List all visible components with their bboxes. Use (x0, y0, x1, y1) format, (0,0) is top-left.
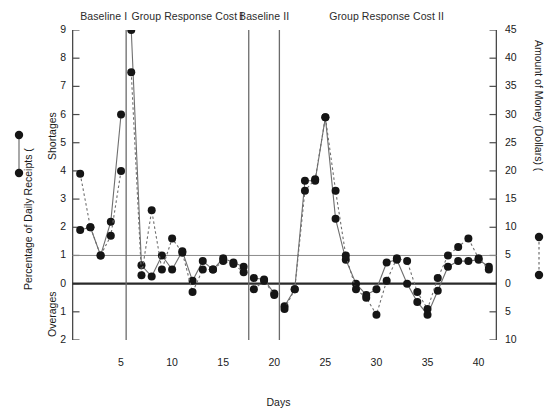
data-point (148, 273, 156, 281)
data-point (148, 206, 156, 214)
data-point (332, 215, 340, 223)
data-point (434, 274, 442, 282)
data-point (311, 175, 319, 183)
data-point (168, 266, 176, 274)
data-point (76, 170, 84, 178)
data-point (270, 291, 278, 299)
series-line-1 (285, 117, 489, 314)
left-axis-tick-label: 3 (44, 192, 66, 204)
x-axis-tick-label: 40 (467, 356, 491, 368)
phase-label-4: Group Response Cost II (329, 10, 444, 22)
x-axis-tick-label: 20 (262, 356, 286, 368)
data-point (209, 266, 217, 274)
right-axis-tick-label: 5 (505, 305, 529, 317)
data-point (372, 311, 380, 319)
x-axis-tick-label: 15 (211, 356, 235, 368)
x-axis-title: Days (0, 396, 557, 408)
data-point (403, 257, 411, 265)
x-axis-tick-label: 5 (109, 356, 133, 368)
data-point (76, 226, 84, 234)
left-axis-tick-label: 7 (44, 79, 66, 91)
solid-line-legend-symbol (10, 126, 28, 182)
data-point (250, 285, 258, 293)
right-axis-tick-label: 35 (505, 79, 529, 91)
data-point (117, 167, 125, 175)
left-axis-tick-label: 8 (44, 51, 66, 63)
data-point (352, 285, 360, 293)
data-point (301, 177, 309, 185)
data-point (240, 268, 248, 276)
right-axis-tick-label: 45 (505, 23, 529, 35)
data-point (97, 251, 105, 259)
data-point (199, 266, 207, 274)
x-axis-tick-label: 35 (416, 356, 440, 368)
data-point (189, 277, 197, 285)
data-point (291, 285, 299, 293)
legend-marker-bottom (535, 271, 543, 279)
data-point (321, 113, 329, 121)
data-point (485, 266, 493, 274)
series-line-2 (285, 117, 489, 314)
left-axis-tick-label: 2 (44, 220, 66, 232)
series-line-1 (131, 30, 243, 281)
data-point (189, 288, 197, 296)
data-point (464, 257, 472, 265)
right-axis-tick-label: 15 (505, 192, 529, 204)
x-axis-tick-label: 10 (160, 356, 184, 368)
data-point (342, 251, 350, 259)
left-axis-tick-label: 4 (44, 164, 66, 176)
data-point (393, 254, 401, 262)
data-point (403, 280, 411, 288)
legend-marker-top (15, 131, 23, 139)
right-axis-tick-label: 10 (505, 220, 529, 232)
data-point (250, 274, 258, 282)
left-axis-shortages-label: Shortages (46, 112, 58, 160)
data-point (117, 111, 125, 119)
data-point (413, 288, 421, 296)
data-point (301, 187, 309, 195)
left-axis-tick-label: 0 (44, 277, 66, 289)
phase-label-2: Group Response Cost I (131, 10, 243, 22)
data-point (424, 305, 432, 313)
data-point (332, 187, 340, 195)
data-point (454, 257, 462, 265)
data-point (281, 305, 289, 313)
data-point (86, 223, 94, 231)
data-point (168, 235, 176, 243)
legend-marker-bottom (15, 169, 23, 177)
right-axis-tick-label: 0 (505, 277, 529, 289)
data-point (362, 294, 370, 302)
data-point (444, 263, 452, 271)
data-point (199, 257, 207, 265)
data-point (444, 251, 452, 259)
data-point (229, 260, 237, 268)
right-axis-tick-label: 5 (505, 248, 529, 260)
left-axis-overages-label: Overages (46, 292, 58, 338)
chart-canvas (72, 30, 497, 340)
series-line-1 (80, 115, 121, 256)
data-point (372, 285, 380, 293)
chart-figure: Baseline IGroup Response Cost IBaseline … (0, 0, 557, 417)
left-axis-tick-label: 1 (44, 248, 66, 260)
data-point (434, 287, 442, 295)
data-point (107, 232, 115, 240)
data-point (158, 266, 166, 274)
data-point (137, 271, 145, 279)
right-axis-tick-label: 10 (505, 333, 529, 345)
right-axis-tick-label: 20 (505, 164, 529, 176)
dashed-line-legend-symbol (530, 228, 548, 284)
phase-label-3: Baseline II (239, 10, 289, 22)
legend-marker-top (535, 233, 543, 241)
right-axis-title: Amount of Money (Dollars) ( (533, 40, 545, 171)
data-point (107, 218, 115, 226)
left-axis-tick-label: 9 (44, 23, 66, 35)
data-point (454, 243, 462, 251)
phase-label-1: Baseline I (80, 10, 127, 22)
data-point (413, 298, 421, 306)
x-axis-tick-label: 25 (313, 356, 337, 368)
data-point (383, 277, 391, 285)
right-axis-tick-label: 25 (505, 136, 529, 148)
data-point (127, 30, 135, 34)
data-point (383, 259, 391, 267)
plot-area (72, 30, 497, 340)
